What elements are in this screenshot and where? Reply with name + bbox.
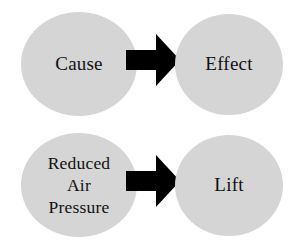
node-lift[interactable]: Lift <box>175 135 283 236</box>
node-effect-label: Effect <box>175 54 283 75</box>
diagram-row-cause-effect: Cause Effect <box>0 8 296 120</box>
arrow-right-icon <box>126 34 180 86</box>
node-reduced-air-pressure-label: Reduced Air Pressure <box>21 152 137 218</box>
node-lift-label: Lift <box>175 175 283 196</box>
node-cause[interactable]: Cause <box>21 12 137 116</box>
arrow-right-icon <box>126 155 180 207</box>
node-effect[interactable]: Effect <box>175 14 283 115</box>
node-reduced-air-pressure[interactable]: Reduced Air Pressure <box>21 133 137 237</box>
node-cause-label: Cause <box>21 54 137 75</box>
diagram-row-pressure-lift: Reduced Air Pressure Lift <box>0 129 296 241</box>
diagram-canvas: Cause Effect Reduced Air Pressure Lift <box>0 0 296 249</box>
arrow-cause-to-effect <box>126 34 180 86</box>
arrow-pressure-to-lift <box>126 155 180 207</box>
